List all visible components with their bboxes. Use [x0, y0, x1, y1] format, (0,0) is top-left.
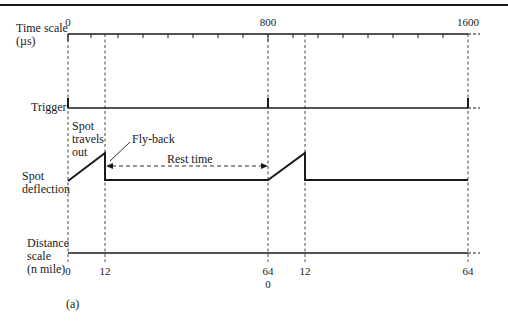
- fly-back-leader: [110, 142, 130, 161]
- spot-deflection-label: Spot deflection: [22, 170, 70, 196]
- time-tick-800: 800: [260, 16, 277, 28]
- time-tick-0: 0: [65, 16, 71, 28]
- distance-tick-64: 64: [263, 265, 274, 277]
- distance-tick-12: 12: [100, 265, 111, 277]
- distance-tick-64-second: 64: [463, 265, 474, 277]
- spot-deflection-label-line2: deflection: [22, 183, 70, 196]
- spot-travels-out-annotation: Spot travels out: [72, 120, 104, 159]
- time-scale-axis: [68, 34, 480, 41]
- fly-back-annotation: Fly-back: [132, 133, 175, 146]
- time-scale-label: Time scale (µs): [16, 22, 68, 48]
- trigger-label: Trigger: [31, 101, 67, 114]
- time-tick-1600: 1600: [457, 16, 479, 28]
- annotation-line: out: [72, 146, 104, 159]
- distance-scale-unit: (n mile): [27, 263, 69, 276]
- timing-diagram: [0, 0, 508, 322]
- distance-scale-label: Distance scale (n mile): [27, 237, 69, 276]
- distance-tick-12-second: 12: [300, 265, 311, 277]
- time-scale-unit: (µs): [16, 35, 68, 48]
- vertical-guides: [68, 34, 468, 262]
- figure-caption: (a): [66, 298, 79, 311]
- trigger-line: [68, 98, 480, 108]
- rest-time-annotation: Rest time: [167, 153, 213, 166]
- distance-tick-0-second: 0: [265, 278, 271, 290]
- distance-tick-0: 0: [65, 265, 71, 277]
